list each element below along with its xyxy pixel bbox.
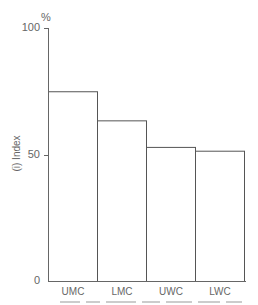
x-category-label-uwc: UWC [147,286,196,297]
bar-lmc [98,121,147,282]
x-category-label-umc: UMC [49,286,98,297]
bar-umc [49,92,98,282]
x-category-label-lmc: LMC [98,286,147,297]
x-category-label-lwc: LWC [196,286,245,297]
bars-group [49,92,245,282]
bar-chart-plot [0,0,258,305]
bar-uwc [147,147,196,281]
cropped-caption [60,301,250,305]
bar-lwc [196,151,245,281]
